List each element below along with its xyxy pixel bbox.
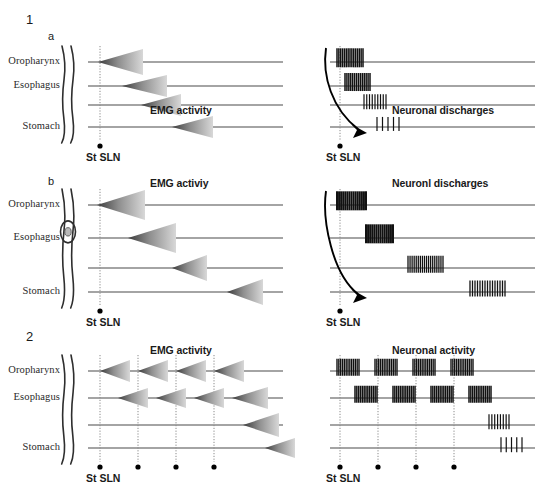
panel-1b-bursts bbox=[337, 191, 505, 296]
spike-burst bbox=[364, 94, 386, 109]
spike-burst bbox=[375, 359, 397, 376]
stimulus-label-left: St SLN bbox=[86, 316, 120, 328]
emg-arrowhead bbox=[172, 255, 207, 281]
emg-arrowhead bbox=[214, 360, 244, 382]
neural-column-title: Neuronal discharges bbox=[392, 104, 494, 116]
stimulus-dot bbox=[211, 464, 216, 469]
panel-1a-anatomy bbox=[62, 46, 74, 143]
stimulus-label-left: St SLN bbox=[86, 472, 120, 484]
row-label-oropharynx: Oropharynx bbox=[2, 364, 60, 375]
panel-1b-emg-arrows bbox=[97, 190, 263, 305]
spike-burst bbox=[451, 359, 473, 376]
spike-burst bbox=[366, 224, 393, 243]
emg-arrowhead bbox=[265, 438, 295, 458]
panel-2a-emg-arrows bbox=[100, 360, 295, 458]
spike-burst bbox=[337, 48, 363, 67]
row-label-stomach: Stomach bbox=[2, 285, 60, 296]
spike-burst bbox=[413, 359, 435, 376]
emg-arrowhead bbox=[176, 360, 206, 382]
row-label-esophagus: Esophagus bbox=[2, 231, 60, 242]
row-label-stomach: Stomach bbox=[2, 441, 60, 452]
stimulus-label-right: St SLN bbox=[326, 472, 360, 484]
stimulus-dot bbox=[451, 464, 456, 469]
panel-number: 2 bbox=[26, 329, 33, 344]
panel-1b-anatomy bbox=[61, 189, 76, 308]
neural-column-title: Neuronal activity bbox=[392, 344, 475, 356]
stimulus-label-right: St SLN bbox=[326, 151, 360, 163]
emg-column-title: EMG activity bbox=[150, 344, 212, 356]
spike-burst bbox=[355, 386, 377, 403]
stimulus-dot bbox=[337, 308, 342, 313]
spike-burst bbox=[377, 117, 399, 131]
stimulus-dot bbox=[337, 143, 342, 148]
emg-arrowhead bbox=[172, 116, 213, 138]
subpanel-letter: b bbox=[48, 175, 54, 187]
spike-burst bbox=[337, 359, 359, 376]
panel-1a bbox=[88, 46, 535, 149]
emg-arrowhead bbox=[98, 49, 143, 75]
spike-burst bbox=[489, 414, 509, 429]
spike-burst bbox=[408, 256, 443, 273]
panel-2a-anatomy bbox=[62, 355, 74, 464]
row-label-stomach: Stomach bbox=[2, 120, 60, 131]
stimulus-dot bbox=[337, 464, 342, 469]
subpanel-letter: a bbox=[48, 30, 54, 42]
stimulus-dot bbox=[97, 308, 102, 313]
stimulus-dot bbox=[413, 464, 418, 469]
stimulus-label-right: St SLN bbox=[326, 316, 360, 328]
stimulus-dot bbox=[135, 464, 140, 469]
row-label-oropharynx: Oropharynx bbox=[2, 198, 60, 209]
emg-arrowhead bbox=[227, 279, 263, 305]
emg-arrowhead bbox=[122, 75, 167, 97]
emg-column-title: EMG activiy bbox=[150, 177, 208, 189]
stimulus-label-left: St SLN bbox=[86, 151, 120, 163]
panel-number: 1 bbox=[26, 12, 33, 27]
stimulus-dot bbox=[97, 464, 102, 469]
spike-burst bbox=[431, 386, 453, 403]
panel-2a-bursts bbox=[337, 359, 522, 452]
panel-1b bbox=[88, 189, 535, 314]
emg-arrowhead bbox=[243, 413, 279, 437]
spike-burst bbox=[470, 280, 505, 296]
emg-arrowhead bbox=[97, 190, 145, 220]
emg-arrowhead bbox=[118, 388, 148, 408]
stimulus-dot bbox=[375, 464, 380, 469]
emg-column-title: EMG activity bbox=[150, 104, 212, 116]
row-label-oropharynx: Oropharynx bbox=[2, 55, 60, 66]
stimulus-dot bbox=[173, 464, 178, 469]
spike-burst bbox=[501, 437, 522, 452]
neural-column-title: Neuronl discharges bbox=[392, 177, 488, 189]
spike-burst bbox=[393, 386, 415, 403]
emg-arrowhead bbox=[194, 388, 224, 408]
emg-arrowhead bbox=[100, 360, 130, 382]
row-label-esophagus: Esophagus bbox=[2, 391, 60, 402]
row-label-esophagus: Esophagus bbox=[2, 79, 60, 90]
stimulus-dot bbox=[97, 143, 102, 148]
emg-arrowhead bbox=[232, 387, 268, 409]
spike-burst bbox=[469, 386, 491, 403]
spike-burst bbox=[337, 191, 366, 210]
emg-arrowhead bbox=[138, 360, 168, 382]
spike-burst bbox=[345, 73, 370, 91]
emg-arrowhead bbox=[156, 388, 186, 408]
emg-arrowhead bbox=[128, 223, 176, 253]
